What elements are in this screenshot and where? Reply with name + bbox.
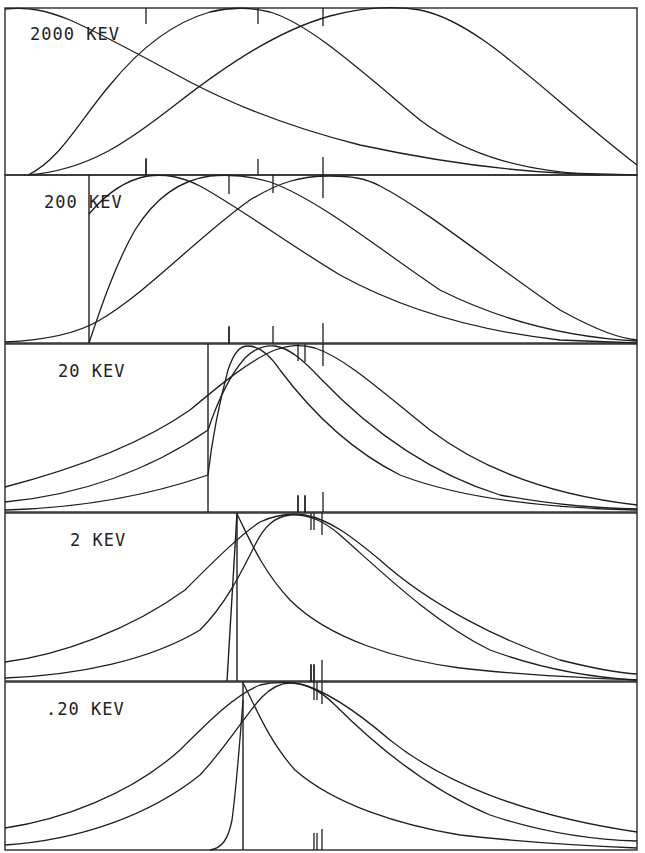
- panel-2000-kev: 2000 KEV: [5, 8, 637, 175]
- series-curve: [89, 175, 637, 343]
- panel-label: 20 KEV: [58, 361, 125, 381]
- series-curve: [243, 683, 637, 848]
- panel-label: 2000 KEV: [30, 24, 120, 44]
- panel-2-kev: 2 KEV: [5, 495, 637, 681]
- panel-20-kev: 20 KEV: [5, 327, 637, 512]
- panel-200-kev: 200 KEV: [5, 158, 637, 343]
- panel-label: .20 KEV: [46, 699, 125, 719]
- series-curve: [237, 514, 637, 680]
- panel-label: 2 KEV: [70, 530, 126, 550]
- rising-line: [227, 513, 237, 681]
- series-curve: [89, 175, 637, 343]
- series-curve: [210, 700, 243, 850]
- panel-0-20-kev: .20 KEV: [5, 665, 637, 850]
- panel-label: 200 KEV: [44, 192, 123, 212]
- figure: 2000 KEV 200 KEV 20 KE: [0, 0, 645, 853]
